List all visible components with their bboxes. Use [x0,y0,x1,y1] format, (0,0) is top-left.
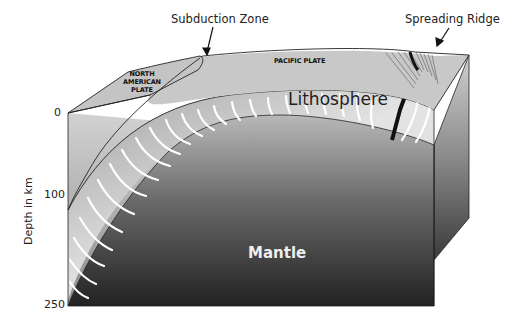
callout-arrows [203,27,449,55]
plate-label-line: AMERICAN [112,78,172,86]
north-american-plate-label: NORTH AMERICAN PLATE [112,70,172,94]
depth-tick-250: 250 [44,298,65,311]
lithosphere-label: Lithosphere [288,89,388,109]
subduction-zone-label: Subduction Zone [171,12,269,26]
block-diagram [0,0,525,326]
pacific-plate-label: PACIFIC PLATE [274,57,325,65]
depth-axis-title: Depth in km [22,177,35,245]
plate-label-line: PLATE [112,86,172,94]
plate-label-line: NORTH [112,70,172,78]
spreading-ridge-label: Spreading Ridge [405,12,500,26]
depth-tick-0: 0 [54,106,61,119]
depth-tick-100: 100 [44,188,65,201]
mantle-label: Mantle [248,244,306,262]
